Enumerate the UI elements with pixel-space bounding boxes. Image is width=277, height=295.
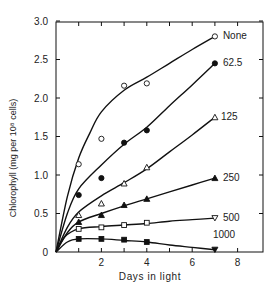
y-tick-label: 3.0 [34,16,48,27]
y-tick-label: 0.5 [34,208,48,219]
y-axis-label: Chlorophyll (mg per 10⁸ cells) [8,99,18,217]
filled-square-marker-icon [99,237,104,242]
filled-circle-marker-icon [99,175,104,180]
y-tick-label: 2.0 [34,93,48,104]
open-triangle-marker-icon [212,114,218,120]
filled-triangle-marker-icon [76,219,82,225]
open-circle-marker-icon [76,162,81,167]
open-triangle-marker-icon [98,200,104,206]
series-label-500: 500 [223,212,240,223]
series-label-1000: 1000 [213,229,236,240]
filled-square-marker-icon [144,240,149,245]
open-circle-marker-icon [144,81,149,86]
series-label-None: None [223,30,247,41]
y-tick-label: 1.0 [34,170,48,181]
open-square-marker-icon [144,220,149,225]
open-square-marker-icon [122,223,127,228]
series-label-125: 125 [221,111,238,122]
series-label-250: 250 [223,172,240,183]
series-label-62.5: 62.5 [223,57,243,68]
open-square-marker-icon [76,227,81,232]
x-tick-label: 6 [189,257,195,268]
series-curves [56,36,215,252]
filled-circle-marker-icon [144,128,149,133]
y-tick-label: 0 [42,247,48,258]
x-tick-label: 8 [235,257,241,268]
filled-circle-marker-icon [122,140,127,145]
filled-square-marker-icon [122,237,127,242]
y-tick-label: 2.5 [34,54,48,65]
filled-triangle-marker-icon [212,175,218,181]
x-axis-label: Days in light [119,271,181,282]
open-circle-marker-icon [212,34,217,39]
x-tick-label: 4 [144,257,150,268]
x-tick-label: 2 [99,257,105,268]
series-labels: None62.51252505001000 [213,30,247,239]
y-tick-label: 1.5 [34,131,48,142]
filled-square-marker-icon [76,237,81,242]
open-circle-marker-icon [99,136,104,141]
chlorophyll-chart: 00.51.01.52.02.53.0 2468 None62.51252505… [0,0,277,295]
filled-circle-marker-icon [212,61,217,66]
chart-canvas: 00.51.01.52.02.53.0 2468 None62.51252505… [0,0,277,295]
filled-circle-marker-icon [76,192,81,197]
open-square-marker-icon [99,225,104,230]
open-circle-marker-icon [122,83,127,88]
